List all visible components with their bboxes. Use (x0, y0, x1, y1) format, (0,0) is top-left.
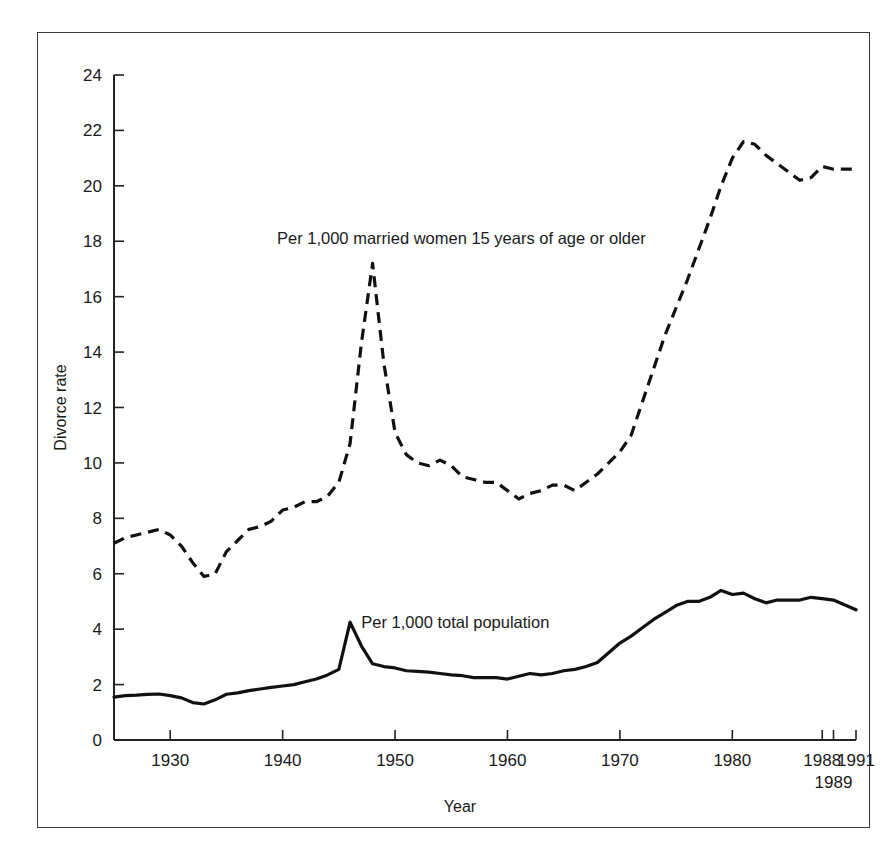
y-tick-label: 20 (83, 177, 102, 196)
divorce-rate-line-chart: 0246810121416182022241930194019501960197… (0, 0, 892, 863)
series-annotation-0: Per 1,000 married women 15 years of age … (277, 229, 646, 247)
series-line-married-women (114, 142, 856, 577)
y-tick-label: 14 (83, 343, 102, 362)
x-tick-label: 1930 (151, 751, 189, 770)
y-tick-label: 8 (93, 509, 102, 528)
y-axis-title-text: Divorce rate (52, 364, 69, 450)
x-tick-label: 1988 (803, 751, 841, 770)
x-axis-title-text: Year (444, 798, 477, 815)
x-tick-label: 1980 (713, 751, 751, 770)
y-tick-label: 22 (83, 121, 102, 140)
y-tick-label: 16 (83, 288, 102, 307)
y-tick-label: 4 (93, 620, 102, 639)
x-tick-label: 1950 (376, 751, 414, 770)
x-tick-label: 1991 (837, 751, 875, 770)
x-tick-label: 1970 (601, 751, 639, 770)
y-tick-label: 12 (83, 399, 102, 418)
x-tick-label: 1940 (264, 751, 302, 770)
axes-layer: 0246810121416182022241930194019501960197… (83, 66, 875, 792)
y-tick-label: 24 (83, 66, 102, 85)
y-tick-label: 10 (83, 454, 102, 473)
series-line-total-population (114, 590, 856, 704)
y-tick-label: 2 (93, 676, 102, 695)
series-annotation-1: Per 1,000 total population (361, 613, 549, 631)
x-tick-label: 1989 (815, 773, 853, 792)
x-tick-label: 1960 (489, 751, 527, 770)
chart-page: 0246810121416182022241930194019501960197… (0, 0, 892, 863)
y-tick-label: 6 (93, 565, 102, 584)
y-tick-label: 18 (83, 232, 102, 251)
y-tick-label: 0 (93, 731, 102, 750)
labels-layer: Divorce rateYearPer 1,000 married women … (52, 229, 646, 815)
